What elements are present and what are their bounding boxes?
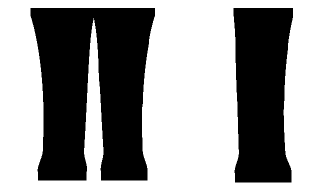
panel-b-scan-image — [165, 0, 321, 191]
panel-a-scan-image — [0, 0, 165, 191]
scintigraphy-figure: (a) (b) — [0, 0, 321, 191]
panel-b: (b) — [165, 0, 321, 191]
panel-a: (a) — [0, 0, 165, 191]
